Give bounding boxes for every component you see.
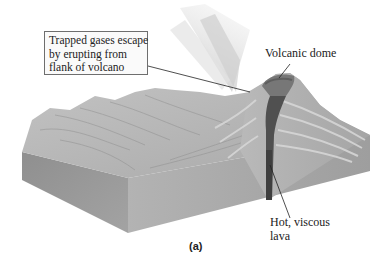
- trapped-gases-line-2: by erupting from: [49, 48, 147, 62]
- volcanic-dome-label: Volcanic dome: [265, 47, 336, 60]
- lava-label-line-1: Hot, viscous: [270, 216, 330, 229]
- figure-caption: (a): [189, 240, 202, 252]
- trapped-gases-line-3: flank of volcano: [49, 61, 147, 75]
- lava-label-line-2: lava: [270, 230, 290, 243]
- trapped-gases-callout: Trapped gases escape by erupting from fl…: [44, 31, 148, 75]
- gas-plume: [170, 4, 250, 92]
- trapped-gases-line-1: Trapped gases escape: [49, 34, 147, 48]
- volcano-block-diagram: Trapped gases escape by erupting from fl…: [0, 0, 391, 264]
